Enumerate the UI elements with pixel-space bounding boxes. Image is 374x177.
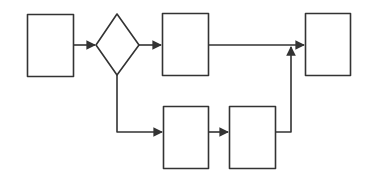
box-end [306,14,351,76]
box-upper-process [163,14,209,76]
box-lower-process-2 [230,107,276,169]
flowchart-canvas [0,0,374,177]
box-start [28,15,74,77]
box-lower-process-1 [164,107,209,169]
edge-decision-to-lower-1 [117,75,162,132]
flowchart-svg [0,0,374,177]
edge-lower-2-to-end [276,47,291,132]
decision-diamond [96,14,139,75]
